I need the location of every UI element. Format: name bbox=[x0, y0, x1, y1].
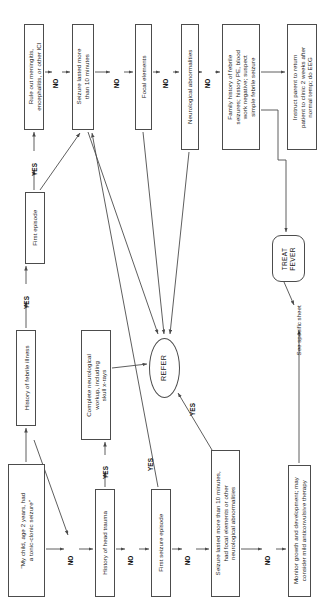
edge-label-no-neuro: NO bbox=[161, 66, 171, 101]
node-instruct-parent-label: Instruct parent to return patient to cli… bbox=[291, 47, 314, 128]
edge-label-no-rule-out-text: NO bbox=[52, 79, 59, 89]
edge-label-yes-first-episode: YES bbox=[28, 152, 41, 187]
edge-label-no-head-trauma: NO bbox=[126, 543, 136, 578]
node-history-head-trauma-label: History of head trauma bbox=[101, 511, 109, 575]
node-first-seizure-episode[interactable]: First seizure episode bbox=[151, 489, 171, 597]
label-see-specific-sheet-text: See specific sheet bbox=[295, 296, 302, 356]
node-seizure-lasted-10-minutes[interactable]: Seizure lasted more than 10 minutes bbox=[72, 24, 94, 130]
flowchart-canvas: "My child, age 2 years, had a tonic-clon… bbox=[0, 0, 335, 610]
node-start-label: "My child, age 2 years, had a tonic-clon… bbox=[19, 493, 34, 569]
edge-label-no-start-text: NO bbox=[67, 556, 74, 566]
node-treat-fever[interactable]: TREAT FEVER bbox=[272, 235, 305, 282]
node-instruct-parent[interactable]: Instruct parent to return patient to cli… bbox=[287, 24, 317, 150]
node-history-febrile-illness-label: History of febrile illness bbox=[22, 346, 30, 411]
edge-label-no-neuro-text: NO bbox=[162, 79, 169, 89]
edge-label-no-start: NO bbox=[66, 543, 76, 578]
node-start[interactable]: "My child, age 2 years, had a tonic-clon… bbox=[8, 464, 45, 597]
node-family-history-febrile-label: Family history of febrile seizures; hist… bbox=[226, 50, 256, 125]
label-see-specific-sheet: See specific sheet bbox=[268, 308, 328, 320]
node-neurological-abnormalities[interactable]: Neurological abnormalities bbox=[181, 24, 199, 150]
node-refer-label: REFER bbox=[161, 355, 169, 381]
node-history-febrile-illness[interactable]: History of febrile illness bbox=[16, 330, 36, 426]
edge-label-no-focal: NO bbox=[112, 66, 122, 101]
node-first-seizure-episode-label: First seizure episode bbox=[157, 514, 165, 572]
edge-label-yes-head-trauma-text: YES bbox=[102, 466, 109, 479]
edge-label-no-family: NO bbox=[203, 66, 213, 101]
edge-label-no-first-seizure-text: NO bbox=[184, 556, 191, 566]
edge-label-yes-head-trauma: YES bbox=[99, 455, 112, 490]
edge-label-yes-refer: YES bbox=[186, 392, 199, 427]
node-first-episode-label: First episode bbox=[31, 210, 39, 246]
node-treat-fever-label: TREAT FEVER bbox=[280, 247, 296, 270]
edge-label-no-first-seizure: NO bbox=[183, 543, 193, 578]
node-refer[interactable]: REFER bbox=[149, 338, 180, 398]
node-seizure-lasted-10-minutes-label: Seizure lasted more than 10 minutes bbox=[75, 49, 90, 105]
node-history-head-trauma[interactable]: History of head trauma bbox=[95, 489, 115, 597]
node-monitor-growth[interactable]: Monitor growth and development; may cons… bbox=[288, 465, 311, 597]
node-seizure-focal-neuro[interactable]: Seizure lasted more than 10 minutes, had… bbox=[211, 450, 240, 597]
edge-label-no-seizure-row: NO bbox=[263, 543, 273, 578]
node-monitor-growth-label: Monitor growth and development; may cons… bbox=[292, 478, 307, 585]
edge-label-yes-first-seizure-text: YES bbox=[147, 458, 154, 471]
edge-label-yes-first-seizure: YES bbox=[144, 447, 157, 482]
edge-label-no-rule-out: NO bbox=[51, 66, 61, 101]
node-family-history-febrile[interactable]: Family history of febrile seizures; hist… bbox=[222, 24, 260, 150]
edge-label-no-family-text: NO bbox=[204, 79, 211, 89]
node-first-episode[interactable]: First episode bbox=[25, 192, 45, 264]
node-focal-elements[interactable]: Focal elements bbox=[135, 24, 152, 130]
edge-label-yes-refer-text: YES bbox=[189, 403, 196, 416]
node-rule-out-meningitis-label: Rule out meningitis, encephalitis, or ot… bbox=[26, 43, 41, 111]
node-rule-out-meningitis[interactable]: Rule out meningitis, encephalitis, or ot… bbox=[24, 24, 44, 130]
edge-label-no-seizure-row-text: NO bbox=[264, 556, 271, 566]
node-complete-neurological-workup[interactable]: Complete neurological workup, including … bbox=[81, 330, 111, 440]
node-complete-neurological-workup-label: Complete neurological workup, including … bbox=[85, 354, 108, 417]
edge-label-yes-first-episode-text: YES bbox=[31, 163, 38, 176]
edge-label-no-head-trauma-text: NO bbox=[127, 556, 134, 566]
node-neurological-abnormalities-label: Neurological abnormalities bbox=[186, 50, 194, 124]
edge-label-no-focal-text: NO bbox=[113, 79, 120, 89]
edge-label-yes-febrile: YES bbox=[20, 285, 33, 320]
edge-label-yes-febrile-text: YES bbox=[23, 296, 30, 309]
node-seizure-focal-neuro-label: Seizure lasted more than 10 minutes, had… bbox=[214, 471, 237, 575]
node-focal-elements-label: Focal elements bbox=[140, 56, 148, 99]
